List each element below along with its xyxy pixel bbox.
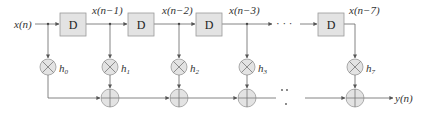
adder-3: [238, 89, 256, 107]
multiplier-h1: [102, 59, 118, 75]
svg-text:D: D: [327, 18, 336, 32]
coef-label-h2: h2: [190, 62, 200, 76]
coef-label-h1: h1: [121, 62, 130, 76]
svg-text:D: D: [137, 18, 146, 32]
ellipsis-top: · · ·: [276, 17, 293, 29]
coef-label-h7: h7: [366, 62, 376, 76]
delay-block-1: D: [60, 13, 86, 36]
input-label: x(n): [13, 18, 32, 31]
adder-2: [170, 89, 188, 107]
fir-filter-diagram: x(n) D D D D x(n−1) x(n−2) x(n−3) x(n−7)…: [0, 0, 427, 118]
adder-7: [346, 89, 364, 107]
sum-lines: [48, 75, 393, 98]
ellipsis-bottom: [281, 89, 288, 105]
adder-1: [101, 89, 119, 107]
svg-text:D: D: [69, 18, 78, 32]
delay-output-label-7: x(n−7): [348, 4, 380, 17]
delay-block-2: D: [128, 13, 154, 36]
svg-text:D: D: [205, 18, 214, 32]
multiplier-h7: [347, 59, 363, 75]
output-label: y(n): [394, 92, 413, 105]
delay-block-3: D: [196, 13, 222, 36]
delay-output-label-1: x(n−1): [91, 4, 123, 17]
coef-label-h3: h3: [258, 62, 268, 76]
multiplier-h3: [239, 59, 255, 75]
coef-label-h0: h0: [59, 62, 69, 76]
multiplier-h2: [171, 59, 187, 75]
delay-output-label-2: x(n−2): [161, 4, 193, 17]
multiplier-h0: [40, 59, 56, 75]
delay-block-7: D: [318, 13, 344, 36]
delay-output-label-3: x(n−3): [228, 4, 260, 17]
